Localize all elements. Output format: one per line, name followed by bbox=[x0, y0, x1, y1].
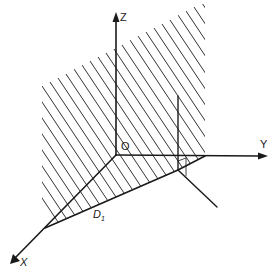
origin-label: O bbox=[121, 141, 130, 152]
x-axis bbox=[15, 155, 116, 258]
y-axis-label: Y bbox=[260, 139, 267, 150]
diagram-svg bbox=[0, 0, 274, 272]
hatched-region bbox=[0, 3, 274, 264]
region-label-d1: D1 bbox=[93, 209, 105, 222]
y-axis bbox=[116, 155, 260, 156]
diagonal-line bbox=[178, 170, 217, 207]
region-label-subscript: 1 bbox=[101, 215, 105, 222]
region-label-main: D bbox=[93, 208, 101, 220]
y-axis-arrowhead bbox=[258, 153, 268, 160]
x-axis-label: X bbox=[20, 257, 27, 268]
diagram-canvas: Z Y X O D1 bbox=[0, 0, 274, 272]
z-axis-label: Z bbox=[120, 12, 127, 23]
z-axis-arrowhead bbox=[113, 12, 120, 22]
projection-box-h bbox=[178, 158, 186, 161]
boundary-d1 bbox=[45, 156, 205, 228]
